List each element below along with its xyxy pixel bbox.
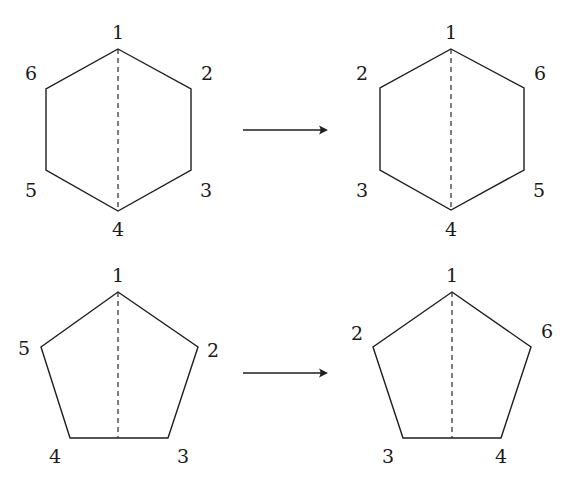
vertex-label: 2 <box>351 322 363 344</box>
hexagon-after: 165432 <box>356 21 546 240</box>
pentagon-before: 12345 <box>18 264 219 467</box>
vertex-label: 1 <box>112 264 124 286</box>
figures-layer: 1234561654321234516432 <box>18 21 553 467</box>
arrows-layer <box>243 126 328 378</box>
vertex-label: 4 <box>495 445 507 467</box>
vertex-label: 6 <box>534 62 546 84</box>
vertex-label: 4 <box>445 218 457 240</box>
diagram-canvas: 1234561654321234516432 <box>0 0 571 489</box>
vertex-label: 3 <box>356 179 368 201</box>
vertex-label: 5 <box>533 179 545 201</box>
vertex-label: 6 <box>541 320 553 342</box>
pentagon-after: 16432 <box>351 264 553 467</box>
vertex-label: 4 <box>112 218 124 240</box>
vertex-label: 1 <box>112 21 124 43</box>
vertex-label: 2 <box>201 62 213 84</box>
vertex-label: 5 <box>25 179 37 201</box>
vertex-label: 6 <box>25 62 37 84</box>
vertex-label: 2 <box>356 62 368 84</box>
vertex-label: 3 <box>200 179 212 201</box>
hexagon-outline <box>380 49 524 210</box>
vertex-label: 1 <box>446 264 458 286</box>
vertex-label: 2 <box>207 339 219 361</box>
vertex-label: 3 <box>177 445 189 467</box>
vertex-label: 3 <box>382 445 394 467</box>
vertex-label: 5 <box>18 337 30 359</box>
pentagon-outline <box>41 292 198 438</box>
arrow-hexagon <box>243 126 328 135</box>
vertex-label: 4 <box>49 445 61 467</box>
arrow-pentagon <box>243 369 328 378</box>
vertex-label: 1 <box>445 21 457 43</box>
hexagon-before: 123456 <box>25 21 213 240</box>
polygon-reflection-diagram: 1234561654321234516432 <box>0 0 571 489</box>
